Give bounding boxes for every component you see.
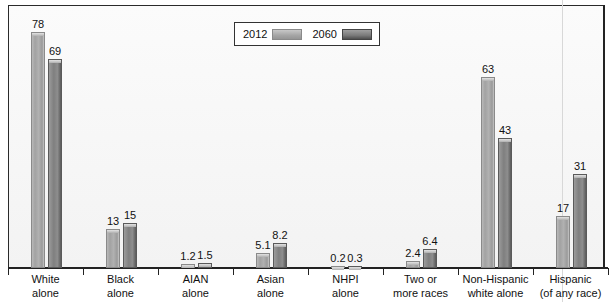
bar-2060 bbox=[573, 174, 587, 268]
data-label: 0.3 bbox=[340, 252, 370, 264]
bar-2012 bbox=[406, 261, 420, 268]
data-label: 63 bbox=[473, 63, 503, 75]
legend-item-2060: 2060 bbox=[312, 28, 371, 40]
bar-2060 bbox=[273, 243, 287, 268]
bar-2060 bbox=[498, 138, 512, 268]
legend-swatch-2012 bbox=[272, 29, 302, 40]
legend: 2012 2060 bbox=[234, 22, 380, 46]
legend-label: 2012 bbox=[243, 28, 267, 40]
bar-2060 bbox=[123, 223, 137, 268]
bar-2060 bbox=[48, 59, 62, 268]
data-label: 43 bbox=[490, 124, 520, 136]
plot-border-right bbox=[603, 5, 605, 268]
bar-2012 bbox=[331, 266, 345, 268]
bar-2012 bbox=[556, 216, 570, 268]
x-axis-category-label: Non-Hispanicwhite alone bbox=[456, 272, 536, 300]
data-label: 69 bbox=[40, 45, 70, 57]
x-axis-category-label: NHPIalone bbox=[306, 272, 386, 300]
x-axis-category-label: Two ormore races bbox=[381, 272, 461, 300]
data-label: 8.2 bbox=[265, 229, 295, 241]
data-label: 31 bbox=[565, 160, 595, 172]
data-label: 15 bbox=[115, 209, 145, 221]
data-label: 1.5 bbox=[190, 249, 220, 261]
x-axis-category-label: Hispanic(of any race) bbox=[531, 272, 611, 300]
bar-2012 bbox=[256, 253, 270, 268]
x-axis-category-label: Whitealone bbox=[6, 272, 86, 300]
bar-2060 bbox=[423, 249, 437, 268]
data-label: 6.4 bbox=[415, 235, 445, 247]
data-label: 78 bbox=[23, 18, 53, 30]
legend-label: 2060 bbox=[312, 28, 336, 40]
bar-2060 bbox=[348, 266, 362, 268]
bar-2012 bbox=[181, 264, 195, 268]
x-axis-category-label: AIANalone bbox=[156, 272, 236, 300]
bar-chart: 786913151.21.55.18.20.20.32.46.463431731… bbox=[0, 0, 613, 302]
legend-item-2012: 2012 bbox=[243, 28, 302, 40]
bar-2012 bbox=[31, 32, 45, 268]
bar-2060 bbox=[198, 263, 212, 268]
x-axis-category-label: Asianalone bbox=[231, 272, 311, 300]
legend-swatch-2060 bbox=[342, 29, 372, 40]
bar-2012 bbox=[481, 77, 495, 268]
bar-2012 bbox=[106, 229, 120, 268]
x-axis-category-label: Blackalone bbox=[81, 272, 161, 300]
